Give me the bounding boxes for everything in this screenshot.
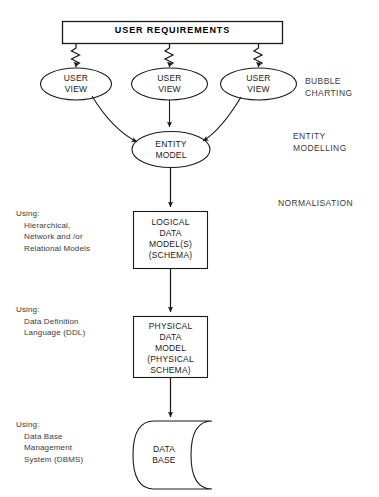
side-note-physical-head: Using:: [16, 304, 85, 316]
side-note-logical-head: Using:: [16, 208, 90, 220]
zigzag-connector-middle: [165, 44, 173, 67]
user-view-ellipse-2: [132, 68, 208, 100]
stage-label-bubble-charting: BUBBLE CHARTING: [305, 76, 352, 99]
diagram-canvas: USER REQUIREMENTS USER VIEW USER VIEW US…: [0, 0, 379, 497]
user-view-ellipse-1: [41, 68, 112, 100]
side-note-database-head: Using:: [16, 419, 83, 431]
side-note-physical: Using: Data Definition Language (DDL): [16, 304, 85, 339]
side-note-database-body: Data Base Management System (DBMS): [24, 431, 83, 466]
entity-model-ellipse: [132, 132, 210, 168]
physical-data-model-box: [134, 317, 208, 378]
zigzag-connector-right: [254, 44, 262, 67]
stage-label-normalisation: NORMALISATION: [278, 198, 353, 210]
zigzag-connector-left: [72, 44, 80, 67]
user-view-ellipse-3: [221, 68, 297, 100]
side-note-logical-body: Hierarchical, Network and /or Relational…: [24, 220, 90, 255]
flow-userview1-to-entity: [92, 96, 137, 142]
side-note-logical: Using: Hierarchical, Network and /or Rel…: [16, 208, 90, 254]
logical-data-model-box: [134, 212, 208, 269]
flow-userview3-to-entity: [203, 97, 241, 141]
side-note-database: Using: Data Base Management System (DBMS…: [16, 419, 83, 465]
side-note-physical-body: Data Definition Language (DDL): [24, 316, 85, 339]
data-base-symbol: [133, 421, 212, 489]
user-requirements-label: USER REQUIREMENTS: [62, 25, 283, 35]
stage-label-entity-modelling: ENTITY MODELLING: [293, 131, 347, 154]
